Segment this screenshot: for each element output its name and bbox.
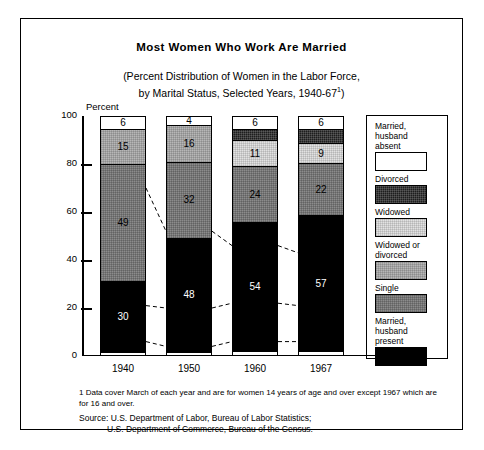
connector-line — [278, 303, 298, 305]
legend-item-label: Married, husband present — [375, 316, 447, 346]
bar-segment[interactable] — [299, 129, 343, 143]
bar-segment-value: 24 — [249, 190, 260, 200]
bar-segment[interactable]: 22 — [299, 163, 343, 216]
bar-segment[interactable]: 54 — [233, 222, 277, 352]
x-tick-label: 1940 — [100, 363, 146, 374]
chart-subtitle-line-2: by Marital Status, Selected Years, 1940-… — [21, 83, 462, 100]
bar-segment-value: 49 — [117, 218, 128, 228]
legend-item[interactable]: Widowed or divorced — [375, 240, 447, 280]
connector-line — [278, 246, 298, 253]
y-tick-label: 20 — [66, 301, 77, 312]
bar-segment-value: 48 — [183, 290, 194, 300]
legend-swatch — [375, 347, 427, 366]
chart-title: Most Women Who Work Are Married — [21, 41, 462, 53]
chart-subtitle-line-2-text: by Marital Status, Selected Years, 1940-… — [139, 87, 337, 99]
x-tick-label: 1967 — [298, 363, 344, 374]
bar-segment[interactable]: 15 — [101, 129, 145, 165]
chart-legend: Married, husband absentDivorcedWidowedWi… — [366, 115, 448, 359]
legend-swatch — [375, 185, 427, 204]
bar-segment-value: 16 — [183, 139, 194, 149]
legend-swatch — [375, 261, 427, 280]
chart-source: Source: U.S. Department of Labor, Bureau… — [79, 413, 439, 435]
chart-figure: Most Women Who Work Are Married (Percent… — [20, 18, 463, 430]
legend-item-label: Widowed or divorced — [375, 240, 447, 260]
bar-segment-value: 15 — [117, 142, 128, 152]
y-axis-line — [82, 116, 84, 356]
y-axis-title: Percent — [86, 101, 119, 112]
bar-segment[interactable]: 9 — [299, 143, 343, 165]
bar-segment[interactable]: 49 — [101, 164, 145, 282]
y-tick-mark — [81, 116, 92, 118]
bar-segment-value: 4 — [186, 116, 192, 126]
bar-segment-value: 6 — [318, 118, 324, 128]
y-tick-label: 40 — [66, 253, 77, 264]
subtitle-close-paren: ) — [341, 87, 345, 99]
y-tick-label: 0 — [72, 349, 77, 360]
legend-item[interactable]: Married, husband absent — [375, 121, 447, 171]
bar-segment[interactable]: 24 — [233, 166, 277, 224]
legend-item-label: Divorced — [375, 174, 447, 184]
x-tick-label: 1960 — [232, 363, 278, 374]
bar-segment[interactable]: 48 — [167, 238, 211, 353]
bar-segment[interactable]: 6 — [101, 116, 145, 130]
bar-segment-value: 11 — [250, 149, 260, 159]
legend-item[interactable]: Widowed — [375, 207, 447, 237]
legend-item[interactable]: Married, husband present — [375, 316, 447, 366]
bar-segment-value: 30 — [117, 312, 128, 322]
connector-line — [212, 342, 232, 347]
y-tick-label: 80 — [66, 157, 77, 168]
bar-segment-value: 22 — [315, 185, 326, 195]
x-tick-label: 1950 — [166, 363, 212, 374]
bar-segment[interactable]: 30 — [101, 281, 145, 353]
source-line-1: Source: U.S. Department of Labor, Bureau… — [79, 413, 311, 423]
connector-line — [212, 231, 232, 245]
legend-swatch — [375, 294, 427, 313]
y-tick-mark — [81, 308, 92, 310]
y-tick-mark — [81, 212, 92, 214]
connector-line — [146, 306, 166, 308]
connector-line — [146, 342, 166, 347]
chart-subtitle-line-1: (Percent Distribution of Women in the La… — [21, 69, 462, 83]
connector-line — [212, 303, 232, 308]
source-line-2: U.S. Department of Commerce, Bureau of t… — [79, 424, 439, 435]
bar-segment[interactable]: 6 — [299, 116, 343, 130]
y-tick-mark — [81, 260, 92, 262]
bar-segment[interactable]: 32 — [167, 162, 211, 239]
bar-segment[interactable]: 11 — [233, 140, 277, 166]
bar-segment-value: 32 — [183, 195, 194, 205]
plot-area: Percent 020406080100 6154930416324861124… — [82, 116, 357, 356]
y-tick-mark — [81, 164, 92, 166]
y-tick-mark — [81, 356, 92, 358]
chart-footnote: 1 Data cover March of each year and are … — [79, 387, 439, 409]
legend-item[interactable]: Single — [375, 283, 447, 313]
y-tick-label: 60 — [66, 205, 77, 216]
stacked-bar[interactable]: 6112454 — [232, 116, 278, 356]
stacked-bar[interactable]: 4163248 — [166, 116, 212, 356]
bar-segment-value: 54 — [249, 282, 260, 292]
legend-swatch — [375, 152, 427, 171]
legend-item-label: Widowed — [375, 207, 447, 217]
connector-line — [146, 188, 166, 231]
legend-item-label: Married, husband absent — [375, 121, 447, 151]
legend-item-label: Single — [375, 283, 447, 293]
y-tick-label: 100 — [61, 109, 77, 120]
chart-subtitle: (Percent Distribution of Women in the La… — [21, 69, 462, 100]
bar-segment[interactable]: 6 — [233, 116, 277, 130]
legend-swatch — [375, 218, 427, 237]
bar-segment-value: 57 — [315, 279, 326, 289]
bar-segment[interactable]: 57 — [299, 215, 343, 352]
stacked-bar[interactable]: 692257 — [298, 116, 344, 356]
bar-segment[interactable]: 16 — [167, 125, 211, 163]
stacked-bar[interactable]: 6154930 — [100, 116, 146, 356]
legend-item[interactable]: Divorced — [375, 174, 447, 204]
bar-segment-value: 9 — [318, 149, 324, 159]
bar-segment-value: 6 — [120, 118, 126, 128]
bar-segment-value: 6 — [252, 118, 258, 128]
